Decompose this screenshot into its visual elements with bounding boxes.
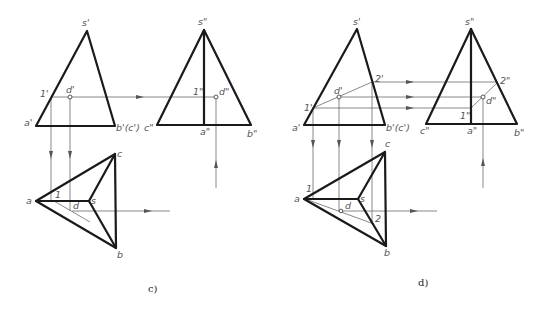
label-1-double-prime: 1" <box>193 86 203 97</box>
arrow-down-icon <box>49 151 53 159</box>
label-c-double-prime: c" <box>420 125 430 136</box>
label-c: c <box>385 138 391 149</box>
arrow-right-icon <box>406 95 414 99</box>
point-d-double-prime <box>214 95 218 99</box>
label-s-prime: s' <box>353 16 361 27</box>
arrow-up-icon <box>481 158 485 166</box>
point-d-double-prime <box>481 95 485 99</box>
label-s: s <box>360 193 365 204</box>
arrow-right-icon <box>410 209 418 213</box>
arrow-right-icon <box>406 106 414 110</box>
front-view-c: s' a' b'(c') 1' d' <box>24 17 140 133</box>
label-a-double-prime: a" <box>467 125 477 136</box>
arrow-right-icon <box>406 80 414 84</box>
label-b-prime-c-prime: b'(c') <box>116 122 140 133</box>
label-d: d <box>345 200 352 211</box>
label-d-double-prime: d" <box>486 95 496 106</box>
label-c-double-prime: c" <box>144 122 154 133</box>
point-d-prime <box>68 95 72 99</box>
arrow-down-icon <box>370 140 374 148</box>
label-c: c <box>117 148 123 159</box>
label-a-prime: a' <box>24 117 32 128</box>
point-d <box>339 209 343 213</box>
arrow-up-icon <box>214 160 218 168</box>
label-s-double-prime: s" <box>465 16 474 27</box>
label-2-double-prime: 2" <box>500 75 510 86</box>
label-s-double-prime: s" <box>198 16 207 27</box>
side-view-c: s" c" a" b" 1" d" <box>144 16 257 139</box>
label-a: a <box>294 193 300 204</box>
label-b: b <box>117 249 123 260</box>
front-view-d: s' a' b'(c') 1' d' 2' <box>292 16 410 133</box>
side-view-d: s" c" a" b" 1" d" 2" <box>420 16 524 138</box>
label-b-double-prime: b" <box>514 127 524 138</box>
construction-lines-d <box>308 80 498 224</box>
label-1: 1 <box>306 183 312 194</box>
top-view-c: a c b s 1 d <box>26 148 123 260</box>
caption-c: c) <box>148 283 158 294</box>
label-s: s <box>91 195 96 206</box>
panel-d: s' a' b'(c') 1' d' 2' s" c" a" b" 1" d" … <box>292 16 524 288</box>
arrow-right-icon <box>136 95 144 99</box>
panel-c: s' a' b'(c') 1' d' s" c" a" b" 1" d" a c <box>24 16 257 294</box>
arrow-down-icon <box>311 140 315 148</box>
arrow-down-icon <box>68 151 72 159</box>
label-2-prime: 2' <box>375 73 384 84</box>
label-d-prime: d' <box>66 84 75 95</box>
projection-diagram: s' a' b'(c') 1' d' s" c" a" b" 1" d" a c <box>0 0 544 311</box>
arrow-right-icon <box>144 209 152 213</box>
label-b-double-prime: b" <box>247 128 257 139</box>
top-view-d: a c b s 1 d 2 <box>294 138 391 258</box>
label-1: 1 <box>55 189 61 200</box>
label-b: b <box>384 247 390 258</box>
label-b-prime-c-prime: b'(c') <box>386 122 410 133</box>
label-s-prime: s' <box>82 17 90 28</box>
label-1-prime: 1' <box>304 102 313 113</box>
label-a-prime: a' <box>292 122 300 133</box>
label-a-double-prime: a" <box>200 126 210 137</box>
label-d-prime: d' <box>334 85 343 96</box>
label-1-prime: 1' <box>40 88 49 99</box>
label-d: d <box>73 200 80 211</box>
label-a: a <box>26 195 32 206</box>
caption-d: d) <box>418 277 428 288</box>
arrow-down-icon <box>337 140 341 148</box>
label-1-double-prime: 1" <box>460 110 470 121</box>
label-2: 2 <box>375 213 381 224</box>
label-d-double-prime: d" <box>219 86 229 97</box>
